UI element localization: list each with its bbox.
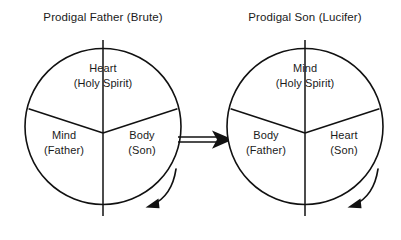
left-diagram-group: Prodigal Father (Brute) Heart (Holy Spir… (25, 11, 181, 216)
left-circle-title: Prodigal Father (Brute) (43, 11, 162, 23)
left-sector-lower-right-qualifier: (Son) (128, 144, 155, 156)
right-sector-lower-right-name: Heart (330, 129, 357, 141)
right-circle-title: Prodigal Son (Lucifer) (248, 11, 361, 23)
right-rotation-arrowhead (348, 199, 362, 209)
transition-arrow (178, 131, 233, 149)
right-sector-top-qualifier: (Holy Spirit) (276, 77, 335, 89)
right-sector-lower-left-name: Body (253, 129, 279, 141)
right-sector-lower-left-qualifier: (Father) (246, 144, 286, 156)
left-sector-lower-right-name: Body (129, 129, 155, 141)
left-sector-lower-left-qualifier: (Father) (44, 144, 84, 156)
left-sector-top-qualifier: (Holy Spirit) (74, 77, 133, 89)
right-sector-lower-right-qualifier: (Son) (330, 144, 357, 156)
right-diagram-group: Prodigal Son (Lucifer) Mind (Holy Spirit… (227, 11, 383, 216)
left-sector-top-name: Heart (89, 62, 116, 74)
left-rotation-arrowhead (146, 199, 160, 209)
diagram-root: Prodigal Father (Brute) Heart (Holy Spir… (0, 0, 401, 240)
left-sector-lower-left-name: Mind (52, 129, 76, 141)
right-sector-top-name: Mind (293, 62, 317, 74)
